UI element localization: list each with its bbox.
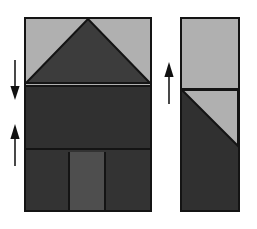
front-door-panel <box>68 152 106 212</box>
dimension-arrow-up-icon <box>6 124 24 166</box>
dimension-arrow-down-icon <box>6 60 24 100</box>
front-lower-band <box>26 148 150 210</box>
front-elevation-panel <box>24 17 152 212</box>
side-elevation-panel <box>180 17 240 212</box>
side-upper-band <box>182 19 238 88</box>
front-middle-band <box>26 85 150 148</box>
elevation-figure <box>0 0 257 229</box>
side-lower-section <box>182 88 238 210</box>
side-roof-slope <box>182 90 238 210</box>
dimension-arrow-up-side-icon <box>160 62 178 104</box>
front-gable-triangle <box>26 19 150 85</box>
